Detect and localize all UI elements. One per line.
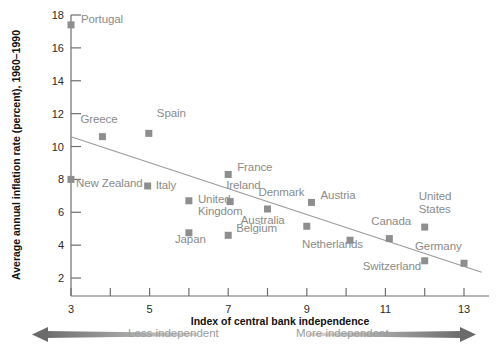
svg-text:14: 14 [52,75,64,87]
svg-text:6: 6 [58,206,64,218]
svg-text:10: 10 [52,141,64,153]
data-point-marker [225,232,232,239]
data-point-marker [461,260,468,267]
data-point-label: Italy [156,179,177,192]
data-point-marker [421,257,428,264]
data-point-label: Austria [321,189,356,202]
scatter-chart: 2468101214161835791113 Index of central … [0,0,498,361]
data-point-label: United Kingdom [198,193,243,218]
data-point-label: Canada [371,215,411,228]
data-point-marker [68,21,75,28]
data-point-marker [264,205,271,212]
more-independent-label: More independent [296,327,389,339]
data-point-label: Spain [157,107,186,120]
data-point-marker [68,176,75,183]
data-point-label: Germany [415,240,462,253]
data-point-label: Ireland [226,179,260,192]
data-point-marker [303,223,310,230]
data-point-label: Japan [175,233,206,246]
svg-text:18: 18 [52,9,64,21]
data-point-label: Netherlands [302,238,363,251]
svg-text:7: 7 [225,303,231,315]
data-point-marker [185,197,192,204]
svg-text:11: 11 [380,303,391,315]
data-point-marker [144,182,151,189]
data-point-label: Switzerland [363,260,421,273]
data-point-marker [421,224,428,231]
svg-text:9: 9 [304,303,310,315]
data-point-marker [308,199,315,206]
svg-text:2: 2 [58,272,64,284]
data-point-label: Portugal [81,13,123,26]
data-point-label: New Zealand [76,177,143,190]
data-point-label: Denmark [259,186,305,199]
less-independent-label: Less independent [128,327,219,339]
svg-text:13: 13 [458,303,470,315]
svg-text:3: 3 [68,303,74,315]
svg-text:16: 16 [52,42,64,54]
data-point-marker [386,235,393,242]
data-point-marker [225,171,232,178]
data-point-marker [99,133,106,140]
data-point-label: Greece [80,113,117,126]
svg-text:8: 8 [58,173,64,185]
data-point-label: France [237,161,272,174]
data-point-label: United States [419,190,452,215]
svg-text:12: 12 [52,108,64,120]
svg-text:4: 4 [58,239,64,251]
data-point-label: Belgium [236,222,277,235]
svg-text:5: 5 [147,303,153,315]
y-axis-title: Average annual inflation rate (percent),… [10,30,22,280]
data-point-marker [145,130,152,137]
